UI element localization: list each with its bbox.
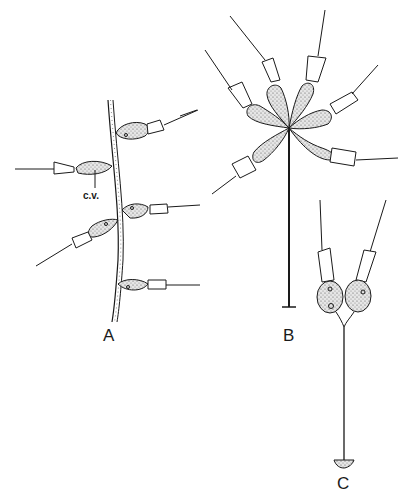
- cell-c1: [317, 281, 343, 313]
- panel-label-b: B: [283, 326, 294, 346]
- cell-a3: [122, 204, 200, 218]
- contractile-vacuole-label: c.v.: [83, 190, 99, 201]
- cell-b6: [289, 128, 398, 166]
- panel-c: [317, 200, 386, 468]
- cell-b5: [212, 128, 289, 194]
- stalk-c-holdfast: [334, 460, 354, 468]
- cell-a4: [36, 219, 118, 266]
- cell-a2: [15, 161, 112, 188]
- panel-label-a: A: [103, 326, 114, 346]
- illustration: [0, 0, 417, 499]
- panel-label-c: C: [337, 474, 349, 494]
- cell-a5: [118, 280, 200, 291]
- panel-a: [15, 100, 200, 322]
- cell-c2: [345, 280, 371, 312]
